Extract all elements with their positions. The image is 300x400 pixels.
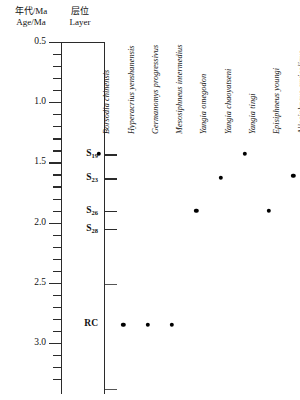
species-label: Yangia omegodon	[199, 74, 208, 134]
species-label: Hyperacrius yenshanensis	[127, 45, 136, 134]
age-tick-minor	[53, 211, 62, 212]
layer-tick	[105, 211, 117, 213]
layer-tick	[105, 389, 117, 390]
age-tick-minor	[53, 271, 62, 272]
layer-label: S19	[62, 148, 98, 158]
age-tick-label: 3.0	[2, 337, 46, 347]
age-tick-major	[49, 102, 62, 103]
layer-tick	[105, 229, 117, 231]
layer-tick	[105, 154, 117, 156]
age-tick-label: 0.5	[2, 36, 46, 46]
species-label: Yangia chaoyatseni	[224, 69, 233, 134]
age-header-chinese: 年代/Ma	[2, 6, 60, 17]
occurrence-dot	[267, 208, 271, 212]
occurrence-dot	[170, 323, 174, 327]
age-tick-minor	[53, 54, 62, 55]
age-tick-minor	[53, 138, 62, 139]
age-tick-minor	[53, 174, 62, 175]
age-tick-minor	[53, 259, 62, 260]
age-tick-minor	[53, 90, 62, 91]
age-tick-minor	[53, 295, 62, 296]
age-tick-minor	[53, 355, 62, 356]
age-tick-major	[49, 343, 62, 344]
age-tick-minor	[53, 307, 62, 308]
layer-column-header: 层位 Layer	[56, 6, 104, 28]
age-tick-minor	[53, 367, 62, 368]
occurrence-dot	[218, 176, 222, 180]
species-label: Borsodia chinensis	[102, 70, 111, 134]
age-tick-label: 1.5	[2, 156, 46, 166]
age-tick-minor	[53, 78, 62, 79]
layer-label: S28	[62, 223, 98, 233]
age-tick-label: 2.5	[2, 277, 46, 287]
species-label: Mesosiphneus intermedius	[175, 45, 184, 135]
species-label: Allosiphneus arvicolinus	[297, 50, 300, 134]
layer-label: S26	[62, 205, 98, 215]
age-tick-minor	[53, 331, 62, 332]
species-label: Germanomys progressivus	[151, 45, 160, 134]
occurrence-dot	[121, 323, 125, 327]
age-tick-major	[49, 283, 62, 284]
layer-header-english: Layer	[56, 17, 104, 28]
age-tick-minor	[53, 319, 62, 320]
layer-header-chinese: 层位	[56, 6, 104, 17]
age-tick-major	[49, 162, 62, 163]
occurrence-dot	[291, 173, 295, 177]
layer-label: RC	[62, 318, 98, 328]
age-tick-minor	[53, 247, 62, 248]
layer-label: S23	[62, 172, 98, 182]
age-tick-minor	[53, 114, 62, 115]
age-tick-label: 2.0	[2, 217, 46, 227]
axis-top-rule	[61, 42, 105, 43]
species-label: Yangia tingi	[248, 93, 257, 134]
age-tick-minor	[53, 126, 62, 127]
age-tick-minor	[53, 66, 62, 67]
layer-tick	[105, 284, 117, 285]
age-tick-minor	[53, 150, 62, 151]
occurrence-dot	[97, 152, 101, 156]
age-header-english: Age/Ma	[2, 17, 60, 28]
age-tick-major	[49, 42, 62, 43]
occurrence-dot	[194, 208, 198, 212]
stratigraphic-range-chart: 年代/Ma Age/Ma 层位 Layer 0.51.01.52.02.53.0…	[0, 0, 300, 400]
age-tick-minor	[53, 235, 62, 236]
occurrence-dot	[243, 152, 247, 156]
age-tick-major	[49, 223, 62, 224]
age-column-header: 年代/Ma Age/Ma	[2, 6, 60, 28]
age-tick-minor	[53, 379, 62, 380]
occurrence-dot	[145, 323, 149, 327]
age-tick-minor	[53, 186, 62, 187]
species-label: Episiphneus youngi	[272, 68, 281, 134]
age-axis-line	[61, 42, 62, 394]
age-tick-label: 1.0	[2, 96, 46, 106]
age-tick-minor	[53, 199, 62, 200]
layer-tick	[105, 178, 117, 180]
